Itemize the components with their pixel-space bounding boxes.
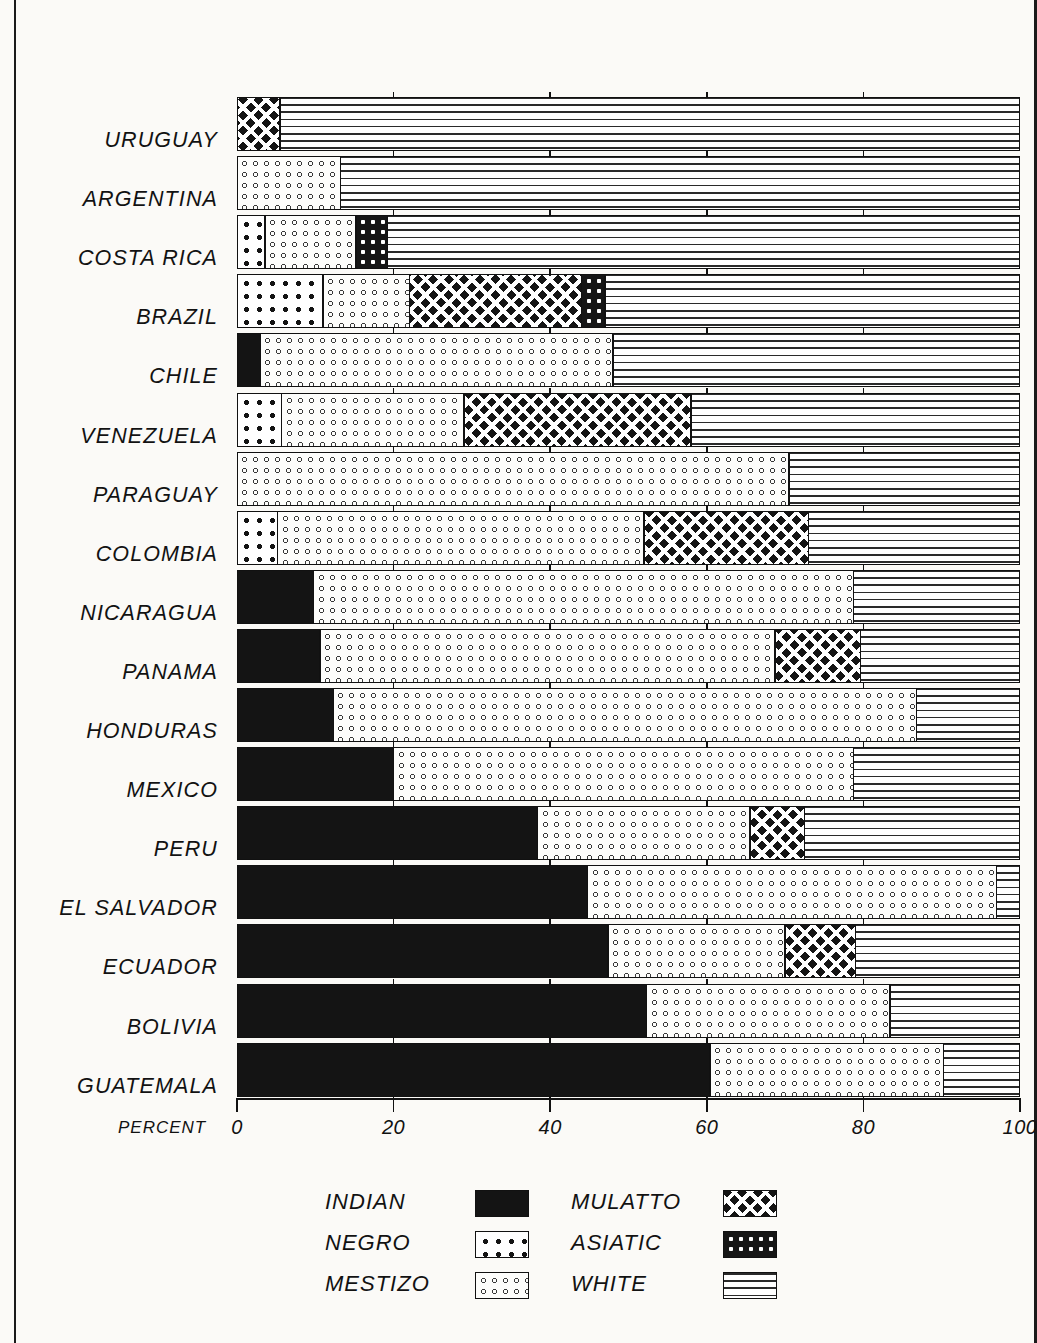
inter-row-tick: [549, 565, 551, 571]
segment-divider: [313, 570, 314, 624]
inter-row-tick: [863, 506, 865, 512]
inter-row-tick: [706, 979, 708, 985]
inter-row-tick: [863, 979, 865, 985]
bar-outline: [237, 156, 1020, 210]
category-label-peru: PERU: [0, 837, 218, 862]
segment-divider: [319, 629, 320, 683]
category-label-argentina: ARGENTINA: [0, 187, 218, 212]
inter-row-tick: [863, 328, 865, 334]
segment-divider: [916, 688, 917, 742]
inter-row-tick: [706, 447, 708, 453]
inter-row-tick: [706, 388, 708, 394]
segment-divider: [355, 215, 356, 269]
inter-row-tick: [549, 624, 551, 630]
inter-row-tick: [863, 919, 865, 925]
category-label-costa-rica: COSTA RICA: [0, 246, 218, 271]
segment-divider: [277, 511, 278, 565]
inter-row-tick: [863, 210, 865, 216]
inter-row-tick: [393, 447, 395, 453]
inter-row-tick: [706, 506, 708, 512]
legend-label-mulatto: MULATTO: [571, 1189, 681, 1215]
segment-divider: [322, 274, 323, 328]
segment-divider: [612, 333, 613, 387]
x-tick-label: 0: [231, 1116, 243, 1139]
inter-row-tick: [863, 1038, 865, 1044]
x-tick-label: 100: [1003, 1116, 1037, 1139]
category-label-nicaragua: NICARAGUA: [0, 600, 218, 625]
inter-row-tick: [393, 565, 395, 571]
bar-outline: [237, 452, 1020, 506]
legend-label-mestizo: MESTIZO: [325, 1271, 430, 1297]
legend-swatch-negro: [475, 1231, 529, 1258]
segment-divider: [281, 393, 282, 447]
inter-row-tick: [549, 860, 551, 866]
inter-row-tick: [706, 801, 708, 807]
category-label-chile: CHILE: [0, 364, 218, 389]
x-tick: [1019, 1098, 1021, 1112]
inter-row-tick: [863, 447, 865, 453]
inter-row-tick: [393, 683, 395, 689]
segment-divider: [279, 97, 280, 151]
inter-row-tick: [549, 683, 551, 689]
segment-divider: [264, 215, 265, 269]
inter-row-tick: [549, 919, 551, 925]
segment-divider: [690, 393, 691, 447]
inter-row-tick: [706, 210, 708, 216]
segment-divider: [409, 274, 410, 328]
inter-row-tick: [393, 388, 395, 394]
segment-divider: [943, 1043, 944, 1097]
segment-divider: [587, 865, 588, 919]
inter-row-tick: [549, 506, 551, 512]
inter-row-tick: [549, 269, 551, 275]
segment-divider: [607, 924, 608, 978]
category-label-venezuela: VENEZUELA: [0, 423, 218, 448]
segment-divider: [604, 274, 605, 328]
inter-row-tick: [393, 151, 395, 157]
segment-divider: [749, 806, 750, 860]
inter-row-tick: [706, 919, 708, 925]
category-label-honduras: HONDURAS: [0, 719, 218, 744]
bar-outline: [237, 511, 1020, 565]
x-tick-label: 80: [852, 1116, 875, 1139]
inter-row-tick: [863, 151, 865, 157]
bar-outline: [237, 333, 1020, 387]
inter-row-tick: [863, 1097, 865, 1103]
x-tick-label: 60: [695, 1116, 718, 1139]
segment-divider: [860, 629, 861, 683]
x-tick: [236, 1098, 238, 1112]
inter-row-tick: [863, 565, 865, 571]
category-label-mexico: MEXICO: [0, 778, 218, 803]
inter-row-tick: [549, 1097, 551, 1103]
category-label-paraguay: PARAGUAY: [0, 482, 218, 507]
segment-divider: [788, 452, 789, 506]
inter-row-tick: [549, 1038, 551, 1044]
x-tick-label: 20: [382, 1116, 405, 1139]
legend-label-negro: NEGRO: [325, 1230, 411, 1256]
bar-outline: [237, 393, 1020, 447]
legend-label-white: WHITE: [571, 1271, 647, 1297]
inter-row-tick: [863, 92, 865, 98]
category-label-ecuador: ECUADOR: [0, 955, 218, 980]
inter-row-tick: [863, 683, 865, 689]
inter-row-tick: [393, 1038, 395, 1044]
segment-divider: [996, 865, 997, 919]
category-label-brazil: BRAZIL: [0, 305, 218, 330]
segment-divider: [808, 511, 809, 565]
legend-label-indian: INDIAN: [325, 1189, 406, 1215]
segment-divider: [387, 215, 388, 269]
inter-row-tick: [393, 919, 395, 925]
category-label-panama: PANAMA: [0, 659, 218, 684]
inter-row-tick: [706, 860, 708, 866]
axis-baseline: [237, 1098, 1020, 1100]
legend-swatch-asiatic: [723, 1231, 777, 1258]
segment-divider: [463, 393, 464, 447]
segment-divider: [646, 984, 647, 1038]
bar-outline: [237, 570, 1020, 624]
inter-row-tick: [393, 742, 395, 748]
legend-swatch-indian: [475, 1190, 529, 1217]
inter-row-tick: [863, 269, 865, 275]
category-label-uruguay: URUGUAY: [0, 128, 218, 153]
segment-divider: [333, 688, 334, 742]
bar-outline: [237, 984, 1020, 1038]
inter-row-tick: [393, 328, 395, 334]
